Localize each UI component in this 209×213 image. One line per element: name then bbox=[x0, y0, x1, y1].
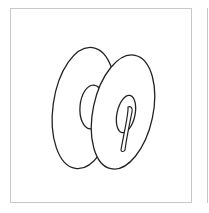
spool-illustration bbox=[0, 0, 209, 213]
